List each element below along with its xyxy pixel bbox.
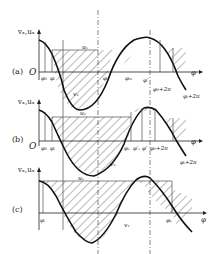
tick-label: φₐ <box>103 75 109 82</box>
v-curve-label: vₓ <box>110 160 116 167</box>
panel-a: vₓ,uₓ (a) O uₓ vₓ φ₀ φᵢ φₐ φₘ φ′ φ₀+2π φ… <box>12 28 203 110</box>
tick-label: φ₀+2π <box>153 86 171 93</box>
origin-label: O <box>29 141 37 151</box>
v-curve-label: vₓ <box>124 221 130 228</box>
tick-label: φᵢ+2π <box>183 93 200 100</box>
y-axis-label: vₓ,uₓ <box>17 166 35 174</box>
tick-label: φ′ <box>143 77 149 84</box>
hatched-region <box>98 50 113 72</box>
tick-label: φ′ₓ <box>133 145 140 152</box>
u-curve-label: uₓ <box>78 174 85 181</box>
u-curve-label: uₓ <box>80 109 87 116</box>
hatched-region <box>165 48 186 78</box>
u-curve-label: uₓ <box>82 43 89 50</box>
y-axis-arrow-icon <box>37 167 41 172</box>
x-axis-label: φ <box>191 138 196 146</box>
v-curve-label: vₓ <box>73 90 79 97</box>
hatched-region <box>43 181 172 243</box>
panel-c: vₓ,uₓ (c) uₓ vₓ φᵢ φₛ φ <box>12 166 207 243</box>
tick-label: φ₀ <box>41 145 48 152</box>
tick-label: φᵢ+2π <box>180 159 197 166</box>
panel-label: (c) <box>12 205 23 214</box>
waveform-diagram: vₓ,uₓ (a) O uₓ vₓ φ₀ φᵢ φₐ φₘ φ′ φ₀+2π φ… <box>0 0 219 254</box>
panel-label: (b) <box>12 135 23 144</box>
panel-b: vₓ,uₓ (b) O uₓ vₓ φ₀ φᵢ φₓ φ′ₓ φ′ φ₀+2π … <box>12 98 203 176</box>
tick-label: φᵢ <box>50 145 55 152</box>
tick-label: φᵢ <box>50 75 55 82</box>
tick-label: φᵢ <box>40 217 45 224</box>
x-axis-arrow-icon <box>203 211 207 215</box>
tick-label: φₛ <box>166 217 172 224</box>
x-axis-arrow-icon <box>199 139 203 143</box>
tick-label: φₓ <box>124 145 130 152</box>
y-axis-label: vₓ,uₓ <box>17 98 35 106</box>
hatched-region <box>164 118 186 146</box>
y-axis-arrow-icon <box>37 29 41 34</box>
tick-label: φ₀ <box>41 75 48 82</box>
tick-label: φ₀+2π <box>150 145 168 152</box>
tick-label: φₘ <box>125 75 132 82</box>
tick-label: φ′ <box>142 145 148 152</box>
x-axis-arrow-icon <box>199 70 203 74</box>
panel-label: (a) <box>12 67 23 76</box>
x-axis-label: φ <box>191 69 196 77</box>
x-axis-label: φ <box>201 216 206 224</box>
origin-label: O <box>29 67 37 77</box>
hatched-region <box>172 189 192 228</box>
hatched-region <box>120 38 150 72</box>
y-axis-arrow-icon <box>37 99 41 104</box>
y-axis-label: vₓ,uₓ <box>17 28 35 36</box>
